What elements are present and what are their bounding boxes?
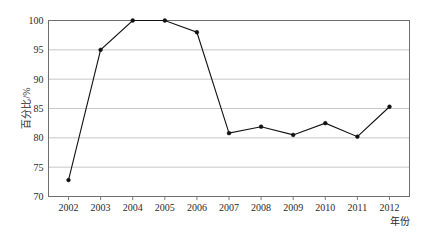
data-point-marker: [227, 131, 231, 135]
data-point-marker: [131, 19, 135, 23]
x-axis-tick-label: 2002: [59, 202, 79, 213]
x-axis-tick-label: 2009: [283, 202, 303, 213]
data-point-marker: [259, 125, 263, 129]
data-point-marker: [388, 105, 392, 109]
y-axis-tick-label: 70: [34, 191, 44, 202]
x-axis-tick-label: 2012: [380, 202, 400, 213]
y-axis-tick-label: 75: [34, 162, 44, 173]
x-axis-tick-label: 2005: [155, 202, 175, 213]
y-axis-tick-label: 80: [34, 132, 44, 143]
x-axis-tick-label: 2010: [315, 202, 335, 213]
chart-canvas: 707580859095100 200220032004200520062007…: [0, 0, 424, 235]
data-point-marker: [99, 48, 103, 52]
y-axis-title: 百分比/%: [21, 87, 32, 128]
x-axis-tick-label: 2008: [251, 202, 271, 213]
x-axis-tick-label: 2007: [219, 202, 239, 213]
chart-background: [0, 0, 424, 235]
data-point-marker: [356, 135, 360, 139]
data-point-marker: [163, 19, 167, 23]
y-axis-tick-label: 85: [34, 103, 44, 114]
y-axis-tick-label: 100: [29, 15, 44, 26]
x-axis-tick-label: 2006: [187, 202, 207, 213]
y-axis-tick-label: 90: [34, 74, 44, 85]
x-axis-tick-label: 2011: [348, 202, 368, 213]
data-point-marker: [323, 121, 327, 125]
x-axis-title: 年份: [390, 215, 410, 227]
y-axis-tick-label: 95: [34, 44, 44, 55]
x-axis-tick-labels: 2002200320042005200620072008200920102011…: [59, 202, 400, 213]
x-axis-tick-label: 2004: [123, 202, 143, 213]
data-point-marker: [291, 133, 295, 137]
data-point-marker: [67, 178, 71, 182]
data-point-marker: [195, 30, 199, 34]
x-axis-tick-label: 2003: [91, 202, 111, 213]
line-chart-figure: 707580859095100 200220032004200520062007…: [0, 0, 424, 235]
